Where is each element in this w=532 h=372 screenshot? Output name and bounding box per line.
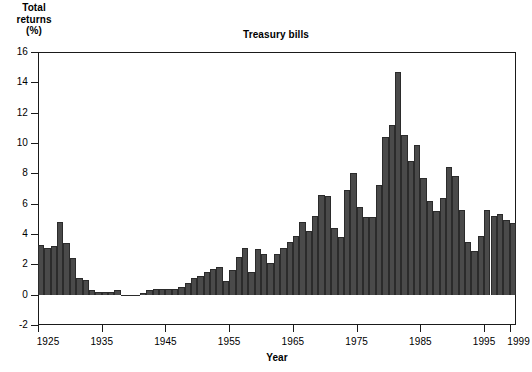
y-axis-tick-label: 2 bbox=[22, 259, 28, 269]
y-axis-tick bbox=[31, 204, 38, 205]
x-axis-tick bbox=[38, 325, 39, 332]
y-axis-tick bbox=[31, 143, 38, 144]
y-axis-tick bbox=[31, 295, 38, 296]
y-axis-tick bbox=[31, 113, 38, 114]
bars-layer bbox=[38, 52, 516, 325]
bar bbox=[134, 295, 140, 296]
x-axis-label: Year bbox=[38, 352, 516, 363]
y-axis-tick bbox=[31, 173, 38, 174]
x-axis-tick-label: 1999 bbox=[507, 336, 530, 347]
y-axis-tick-label: 10 bbox=[17, 138, 28, 148]
x-axis-tick bbox=[165, 325, 166, 332]
bar bbox=[510, 223, 516, 294]
y-axis-tick bbox=[31, 264, 38, 265]
y-axis-tick bbox=[31, 52, 38, 53]
x-axis-tick-label: 1975 bbox=[345, 336, 368, 347]
y-axis-tick-label: 8 bbox=[22, 168, 28, 178]
x-axis-tick bbox=[484, 325, 485, 332]
x-axis-tick-label: 1935 bbox=[90, 336, 113, 347]
x-axis-tick-label: 1985 bbox=[409, 336, 432, 347]
chart-title: Treasury bills bbox=[36, 29, 516, 40]
x-axis-tick-label: 1995 bbox=[473, 336, 496, 347]
y-axis-tick-label: 12 bbox=[17, 108, 28, 118]
x-axis-tick bbox=[229, 325, 230, 332]
y-axis-tick-label: 6 bbox=[22, 199, 28, 209]
x-axis-tick bbox=[293, 325, 294, 332]
x-axis-tick bbox=[510, 325, 511, 332]
y-axis-tick-label: 14 bbox=[17, 77, 28, 87]
x-axis-tick bbox=[357, 325, 358, 332]
x-axis-tick-label: 1955 bbox=[218, 336, 241, 347]
y-axis-tick-label: 16 bbox=[17, 47, 28, 57]
treasury-bills-chart-figure: Total returns (%) Treasury bills -202468… bbox=[0, 0, 532, 372]
y-axis-tick-label: -2 bbox=[19, 320, 28, 330]
x-axis-tick bbox=[420, 325, 421, 332]
x-axis-tick-label: 1945 bbox=[154, 336, 177, 347]
y-axis-tick bbox=[31, 234, 38, 235]
y-axis-tick-label: 4 bbox=[22, 229, 28, 239]
y-axis-label-line-1: Total bbox=[2, 2, 66, 14]
y-axis-label-line-2: returns bbox=[2, 14, 66, 26]
x-axis-tick bbox=[102, 325, 103, 332]
y-axis-tick bbox=[31, 325, 38, 326]
y-axis-tick-label: 0 bbox=[22, 290, 28, 300]
x-axis-tick-label: 1925 bbox=[37, 336, 60, 347]
y-axis-tick bbox=[31, 82, 38, 83]
x-axis-tick-label: 1965 bbox=[282, 336, 305, 347]
